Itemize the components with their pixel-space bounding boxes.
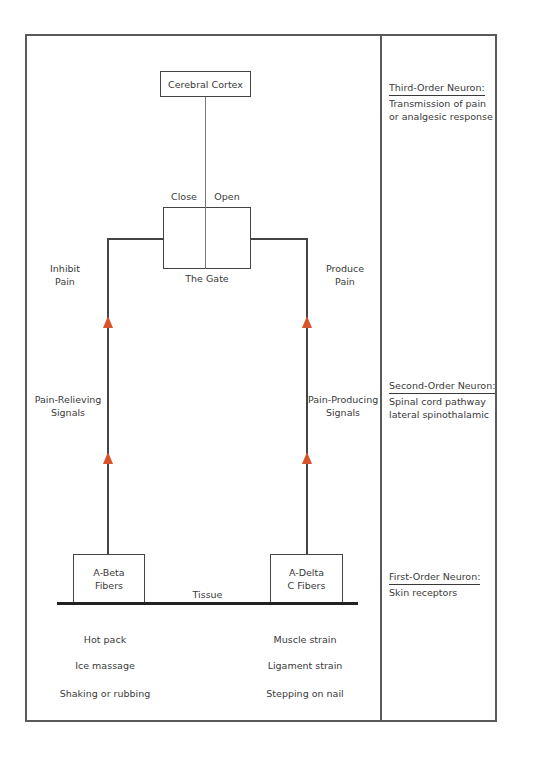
right-example-2: Ligament strain	[250, 659, 360, 672]
a-beta-line2: Fibers	[95, 580, 123, 591]
a-beta-fibers-node: A-Beta Fibers	[73, 554, 145, 604]
tissue-label: Tissue	[180, 588, 235, 601]
right-lower-arrow-icon	[302, 452, 312, 464]
gate-label: The Gate	[163, 272, 251, 285]
pain-producing-line1: Pain-Producing	[308, 394, 378, 405]
second-order-line1: Spinal cord pathway	[389, 395, 495, 408]
diagram-frame	[25, 34, 497, 722]
a-delta-c-fibers-node: A-Delta C Fibers	[270, 554, 343, 604]
right-example-3: Stepping on nail	[250, 687, 360, 700]
pain-producing-line2: Signals	[326, 407, 360, 418]
second-order-neuron-block: Second-Order Neuron: Spinal cord pathway…	[389, 379, 495, 421]
gate-box	[163, 207, 251, 269]
second-order-title: Second-Order Neuron:	[389, 379, 495, 394]
second-order-line2: lateral spinothalamic	[389, 408, 495, 421]
produce-pain-line2: Pain	[335, 276, 355, 287]
third-order-neuron-block: Third-Order Neuron: Transmission of pain…	[389, 81, 493, 123]
pain-producing-signals-label: Pain-Producing Signals	[308, 393, 378, 419]
a-delta-line1: A-Delta	[289, 567, 324, 578]
cerebral-cortex-node: Cerebral Cortex	[160, 71, 251, 97]
sidebar-divider	[380, 34, 382, 722]
pain-relieving-line2: Signals	[51, 407, 85, 418]
third-order-line1: Transmission of pain	[389, 97, 493, 110]
right-gate-connector	[251, 238, 307, 240]
right-upper-arrow-icon	[302, 316, 312, 328]
inhibit-pain-line1: Inhibit	[50, 263, 80, 274]
left-upper-arrow-icon	[103, 316, 113, 328]
inhibit-pain-line2: Pain	[55, 276, 75, 287]
gate-open-label: Open	[209, 190, 245, 203]
inhibit-pain-label: Inhibit Pain	[35, 262, 95, 288]
left-signal-path	[107, 238, 109, 555]
first-order-title: First-Order Neuron:	[389, 570, 480, 585]
left-example-2: Ice massage	[50, 659, 160, 672]
right-example-1: Muscle strain	[250, 633, 360, 646]
gate-close-label: Close	[168, 190, 200, 203]
left-example-1: Hot pack	[50, 633, 160, 646]
left-gate-connector	[107, 238, 163, 240]
tissue-baseline	[57, 602, 358, 605]
produce-pain-line1: Produce	[326, 263, 364, 274]
third-order-line2: or analgesic response	[389, 110, 493, 123]
cerebral-cortex-label: Cerebral Cortex	[168, 78, 243, 91]
pain-relieving-line1: Pain-Relieving	[35, 394, 102, 405]
left-lower-arrow-icon	[103, 452, 113, 464]
produce-pain-label: Produce Pain	[315, 262, 375, 288]
pain-relieving-signals-label: Pain-Relieving Signals	[30, 393, 106, 419]
first-order-line1: Skin receptors	[389, 586, 480, 599]
first-order-neuron-block: First-Order Neuron: Skin receptors	[389, 570, 480, 599]
left-example-3: Shaking or rubbing	[50, 687, 160, 700]
gate-divider	[205, 207, 206, 269]
a-beta-line1: A-Beta	[93, 567, 124, 578]
a-delta-line2: C Fibers	[288, 580, 326, 591]
third-order-title: Third-Order Neuron:	[389, 81, 485, 96]
